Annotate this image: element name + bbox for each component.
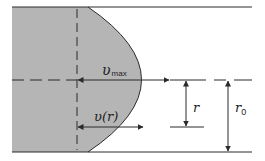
r-label: r bbox=[193, 100, 200, 115]
r0-label: r0 bbox=[235, 100, 246, 117]
v-r-label: υ(r) bbox=[94, 109, 118, 124]
velocity-profile-diagram: υmax υ(r) r r0 bbox=[0, 0, 265, 161]
